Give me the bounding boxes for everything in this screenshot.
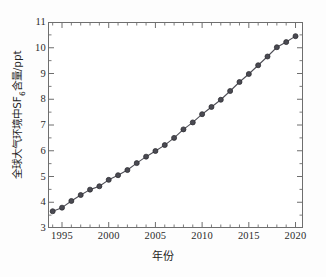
data-point [200, 112, 205, 117]
y-axis-title: 全球大气环境中SF6含量/ppt [9, 15, 26, 215]
data-point [78, 193, 83, 198]
data-point [60, 205, 65, 210]
data-point [97, 184, 102, 189]
data-point [69, 198, 74, 203]
data-point [237, 80, 242, 85]
chart-figure: 34567891011 199520002005201020152020 年份 … [0, 0, 326, 277]
data-point [274, 45, 279, 50]
plot-canvas [48, 22, 303, 228]
data-point [246, 72, 251, 77]
x-tick-label: 2010 [191, 231, 213, 242]
y-axis-title-subscript: 6 [18, 91, 27, 96]
x-tick-label: 2020 [285, 231, 307, 242]
data-point [293, 34, 298, 39]
data-point [50, 209, 55, 214]
data-point [106, 177, 111, 182]
data-point [218, 97, 223, 102]
data-point [134, 161, 139, 166]
x-tick-label: 1995 [51, 231, 73, 242]
data-point [228, 89, 233, 94]
x-axis-tick-labels: 199520002005201020152020 [0, 231, 326, 247]
x-tick-label: 2015 [238, 231, 260, 242]
x-tick-label: 2005 [145, 231, 167, 242]
x-axis-title: 年份 [0, 247, 326, 263]
y-axis-title-main: 全球大气环境中SF [11, 96, 23, 179]
data-point [284, 40, 289, 45]
data-point [144, 154, 149, 159]
data-point [153, 149, 158, 154]
data-point [162, 143, 167, 148]
data-point [209, 104, 214, 109]
data-point [125, 168, 130, 173]
data-point [256, 63, 261, 68]
x-tick-label: 2000 [98, 231, 120, 242]
data-point [116, 173, 121, 178]
y-axis-title-tail: 含量/ppt [11, 50, 23, 91]
data-point [265, 54, 270, 59]
data-point [190, 120, 195, 125]
data-point [181, 127, 186, 132]
data-point [172, 135, 177, 140]
data-point [88, 187, 93, 192]
